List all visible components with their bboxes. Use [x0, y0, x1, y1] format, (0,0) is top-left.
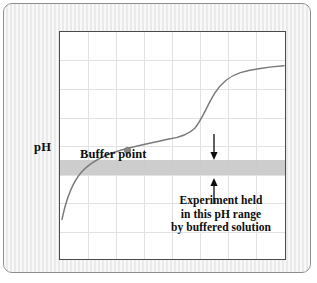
y-axis-label-ph: pH — [34, 140, 51, 155]
arrow-down-icon — [208, 134, 220, 161]
experiment-note-line-1: Experiment held — [147, 194, 295, 208]
experiment-note-line-2: in this pH range — [147, 208, 295, 222]
figure-card: pH — [3, 3, 311, 273]
experiment-note: Experiment held in this pH range by buff… — [147, 194, 295, 235]
experiment-note-line-3: by buffered solution — [147, 221, 295, 235]
buffer-point-label: Buffer point — [80, 147, 147, 162]
figure-root: pH — [0, 0, 317, 283]
